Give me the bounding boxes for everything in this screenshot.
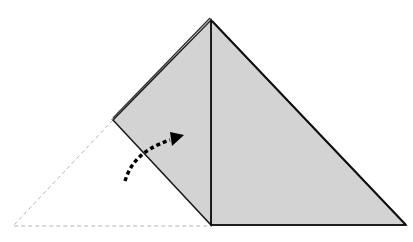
origami-diagram <box>0 0 413 242</box>
diagram-canvas <box>0 0 413 242</box>
paper-left-flap <box>113 20 211 225</box>
